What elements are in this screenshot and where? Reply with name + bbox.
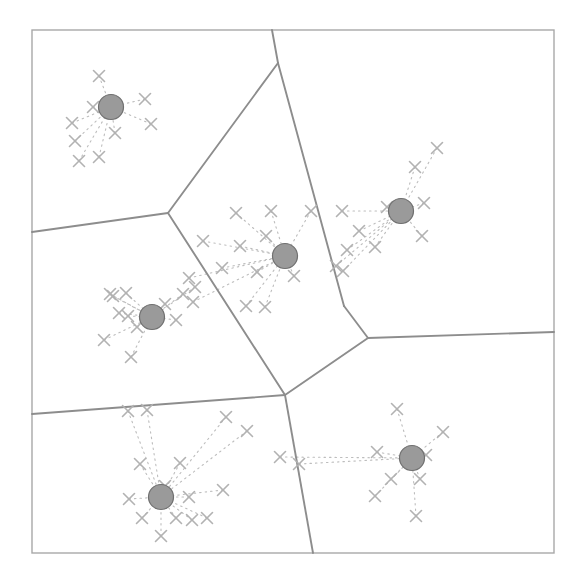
centroid-marker — [99, 95, 124, 120]
figure-background — [0, 0, 588, 578]
centroid-marker — [273, 244, 298, 269]
centroid-marker — [389, 199, 414, 224]
voronoi-figure: Voronoi partition of clustered scatter p… — [0, 0, 588, 578]
centroid-marker — [140, 305, 165, 330]
voronoi-canvas — [0, 0, 588, 578]
centroid-marker — [149, 485, 174, 510]
centroid-marker — [400, 446, 425, 471]
